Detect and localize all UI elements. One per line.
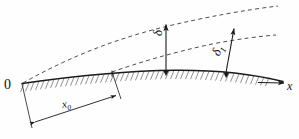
inner-boundary-layer-edge [112,35,276,72]
delta-label: δ [151,30,164,36]
x0-dimension-line [35,96,116,123]
x0-subscript: 0 [67,103,72,112]
x0-leader-right [112,72,121,99]
x-axis-label: x [287,80,292,92]
origin-label: 0 [4,78,11,92]
x-axis-arrow [258,83,284,84]
wall-surface-curve [22,70,283,83]
boundary-layer-figure: 0 x x0 δ δ1 [0,0,299,139]
figure-canvas [0,0,299,139]
wall-hatching [21,70,270,92]
